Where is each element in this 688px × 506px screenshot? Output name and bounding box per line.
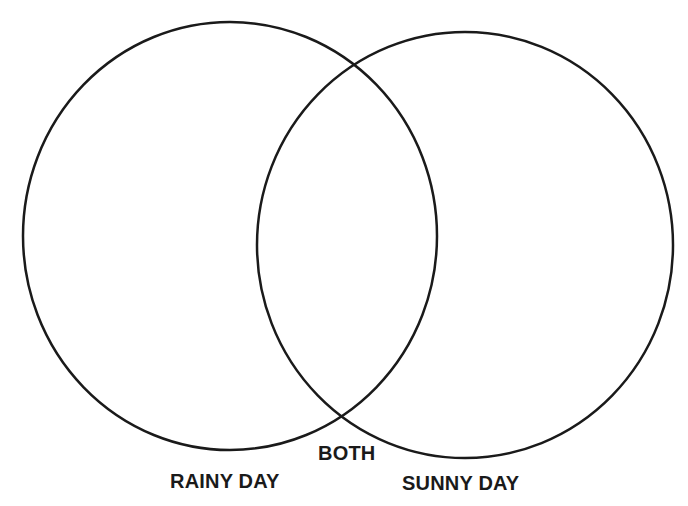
set-label-sunny-day: SUNNY DAY: [402, 472, 519, 494]
venn-diagram: [0, 0, 688, 506]
rainy-day-circle: [23, 22, 437, 450]
sunny-day-circle: [257, 32, 673, 458]
intersection-label-both: BOTH: [318, 442, 375, 464]
set-label-rainy-day: RAINY DAY: [170, 470, 280, 492]
